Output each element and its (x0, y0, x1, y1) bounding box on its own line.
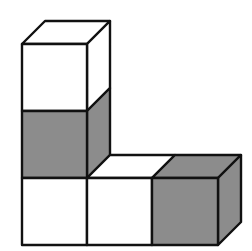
cube-bottom-right-front-face (152, 178, 218, 245)
cube-diagram (0, 0, 252, 251)
cube-bottom-left-front-face (22, 178, 87, 245)
cube-top-front-face (22, 44, 87, 111)
cube-bottom-center-front-face (87, 178, 152, 245)
cube-top (22, 21, 110, 111)
cube-middle-front-face (22, 111, 87, 178)
